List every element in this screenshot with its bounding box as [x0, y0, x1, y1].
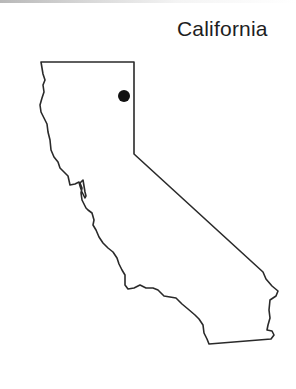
california-map	[0, 0, 296, 389]
location-marker-dot	[118, 90, 130, 102]
california-state-outline	[40, 62, 278, 344]
